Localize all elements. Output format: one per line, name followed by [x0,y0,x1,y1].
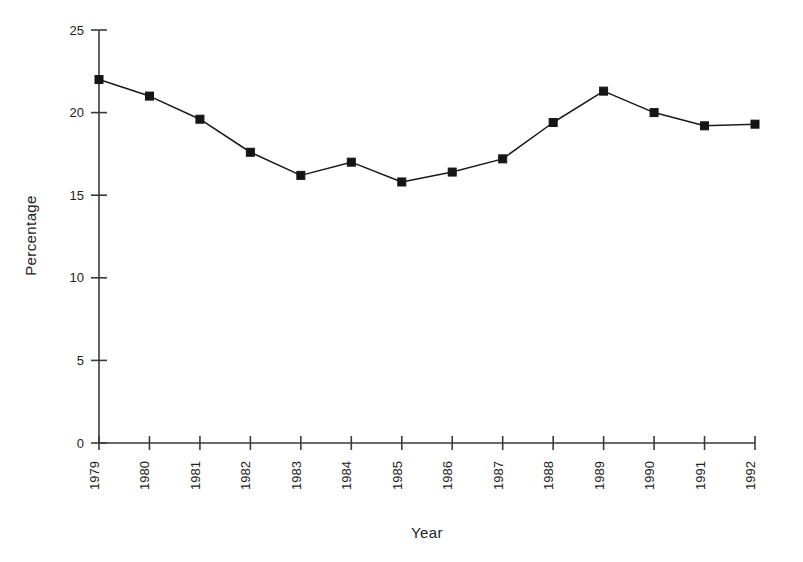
y-tick-label: 10 [70,270,84,285]
y-tick-label: 5 [77,353,84,368]
series-line [99,80,755,182]
data-point-marker [196,115,204,123]
data-point-marker [145,92,153,100]
x-tick-label: 1979 [87,461,102,490]
x-tick-label: 1986 [440,461,455,490]
y-tick-label: 0 [77,436,84,451]
x-tick-label: 1984 [339,461,354,490]
plot-area: 0510152025 19791980198119821983198419851… [0,0,803,562]
data-point-marker [297,171,305,179]
y-tick-label: 20 [70,105,84,120]
data-point-marker [448,168,456,176]
data-series [95,76,759,186]
data-point-marker [347,158,355,166]
x-tick-label: 1990 [642,461,657,490]
data-point-marker [398,178,406,186]
data-point-marker [499,155,507,163]
x-tick-label: 1987 [491,461,506,490]
data-point-marker [246,148,254,156]
data-point-marker [751,120,759,128]
x-tick-label: 1988 [541,461,556,490]
data-point-marker [701,122,709,130]
data-point-marker [650,109,658,117]
y-tick-label: 25 [70,23,84,38]
x-tick-label: 1991 [693,461,708,490]
x-tick-label: 1989 [592,461,607,490]
x-tick-label: 1980 [137,461,152,490]
data-point-marker [600,87,608,95]
x-tick-label: 1985 [390,461,405,490]
data-point-marker [549,119,557,127]
x-tick-label: 1981 [188,461,203,490]
x-tick-label: 1992 [743,461,758,490]
line-chart: Percentage Year 0510152025 1979198019811… [0,0,803,562]
data-point-marker [95,76,103,84]
x-axis: 1979198019811982198319841985198619871988… [87,436,758,490]
x-tick-label: 1982 [238,461,253,490]
y-tick-label: 15 [70,188,84,203]
y-axis: 0510152025 [70,23,107,451]
x-tick-label: 1983 [289,461,304,490]
